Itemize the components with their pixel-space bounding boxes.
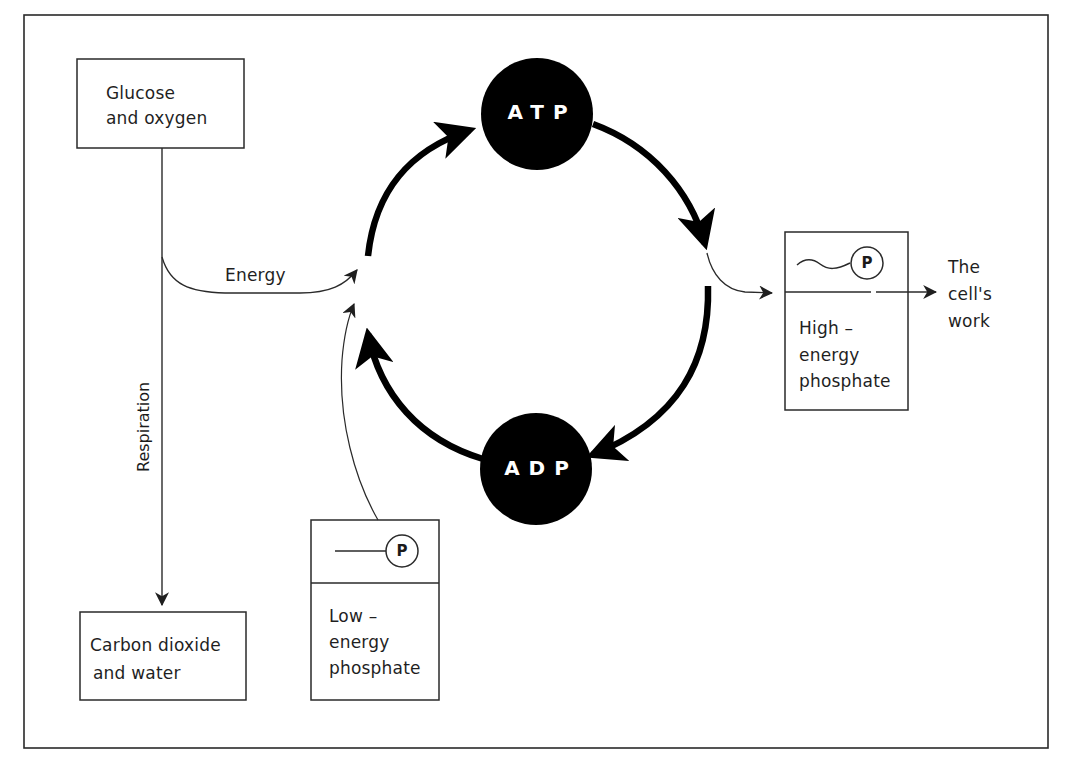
cells-work-line1: The [948, 253, 980, 281]
energy-label: Energy [225, 261, 286, 289]
cycle-arrow-adp-up [368, 334, 483, 459]
cycle-arrow-atp-to-high [593, 124, 705, 244]
glucose-label-line1: Glucose [106, 79, 175, 107]
respiration-label: Respiration [134, 382, 153, 472]
high-phosphate-line1: High – [799, 314, 853, 342]
low-phosphate-line1: Low – [329, 602, 377, 630]
atp-to-phosphate-arrow [707, 253, 772, 293]
cycle-arrow-down-to-adp [592, 286, 708, 455]
co2-label-line1: Carbon dioxide [90, 631, 221, 659]
low-phosphate-symbol: P [389, 538, 415, 564]
atp-label: ATP [492, 100, 592, 124]
high-phosphate-symbol: P [854, 250, 880, 276]
high-phosphate-line3: phosphate [799, 367, 891, 395]
low-phosphate-arrow [341, 304, 378, 520]
low-phosphate-line3: phosphate [329, 654, 421, 682]
high-phosphate-line2: energy [799, 341, 859, 369]
adp-label: ADP [491, 456, 591, 480]
high-bond-squiggle [797, 260, 850, 269]
glucose-label-line2: and oxygen [106, 104, 207, 132]
low-phosphate-line2: energy [329, 628, 389, 656]
cells-work-line2: cell's [948, 280, 992, 308]
co2-label-line2: and water [93, 659, 181, 687]
cells-work-line3: work [948, 307, 990, 335]
cycle-arrow-adp-to-atp [368, 130, 470, 256]
